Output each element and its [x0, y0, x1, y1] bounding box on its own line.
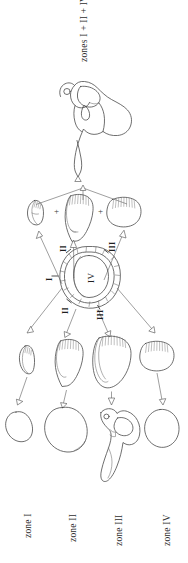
ring-label-zone-1: I: [46, 277, 54, 281]
top-composite-zones-label: zones I + II + IV: [80, 0, 90, 62]
ring-label-zone-2-upper: II: [60, 245, 68, 252]
glenoid-piece-right: [107, 197, 141, 227]
zone-label-3: zone III: [115, 515, 125, 546]
arrowhead-to-blob-3: [108, 398, 114, 405]
combination-operator-2: +: [98, 207, 103, 216]
top-scapula-outline: [60, 81, 132, 181]
ring-label-zone-2-lower: II: [62, 307, 70, 314]
arrowhead-to-blob-4: [159, 399, 165, 405]
connectors-ring-to-zone-pieces: [27, 288, 155, 338]
zone-piece-2: [55, 339, 83, 386]
arrowhead-to-zone-piece-1: [27, 326, 34, 333]
combination-operator-1: +: [54, 207, 59, 216]
glenoid-piece-middle: [65, 194, 93, 241]
arrowhead-combination-merge: [80, 185, 86, 191]
blob-zone-3-scapula: [101, 409, 140, 482]
arrowhead-to-piece-left: [36, 231, 42, 239]
glenoid-piece-left: [28, 200, 44, 225]
zone-label-1: zone I: [24, 513, 34, 538]
blob-zone-4: [145, 409, 179, 447]
zone-piece-4: [140, 341, 174, 371]
arrowhead-to-zone-piece-4: [149, 327, 155, 334]
blob-zone-2: [45, 407, 88, 452]
figure-root: zones I + II + IV I II III II III IV + +…: [0, 0, 188, 563]
zone-piece-3: [93, 336, 131, 388]
ring-label-zone-4-center: IV: [87, 273, 96, 283]
connectors-pieces-to-blobs: [16, 373, 165, 408]
ring-label-zone-3-upper: III: [109, 241, 117, 252]
blob-zone-1: [6, 412, 33, 442]
zone-label-2: zone II: [69, 514, 79, 542]
zone-piece-1: [19, 345, 34, 373]
arrowhead-to-zone-piece-2: [64, 332, 70, 338]
ring-label-zone-3-lower: III: [97, 309, 105, 320]
arrowhead-to-piece-right: [120, 230, 127, 238]
zone-label-4: zone IV: [163, 514, 173, 546]
arrowhead-to-blob-1: [16, 399, 22, 405]
arrowhead-top-bone: [75, 176, 81, 182]
